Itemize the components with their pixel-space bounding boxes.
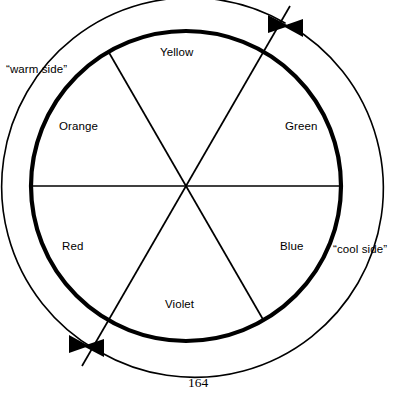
page-number: 164 (0, 375, 396, 391)
color-wheel-graphic (0, 0, 396, 399)
sector-label-violet: Violet (165, 298, 194, 311)
arrowhead-bottom-warm-icon (83, 339, 104, 357)
annotation-warm-side: “warm side” (6, 63, 67, 76)
sector-label-red: Red (62, 240, 83, 253)
sector-label-green: Green (285, 120, 317, 133)
annotation-cool-side: “cool side” (333, 243, 387, 256)
sector-label-yellow: Yellow (160, 46, 193, 59)
arrowhead-top-cool-icon (283, 19, 303, 37)
sector-label-blue: Blue (280, 240, 303, 253)
color-wheel-figure: Yellow Green Blue Violet Red Orange “war… (0, 0, 396, 399)
arrowhead-top-warm-icon (268, 15, 289, 33)
warm-side-outer-arc (2, 0, 285, 350)
sector-label-orange: Orange (59, 120, 98, 133)
